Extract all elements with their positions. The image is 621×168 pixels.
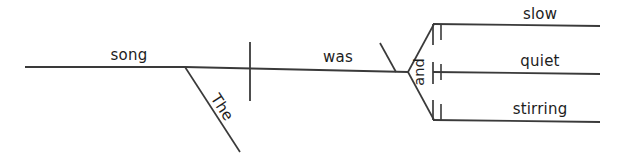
verb-word-label: was (323, 48, 353, 66)
complement-word-label-quiet: quiet (520, 52, 559, 70)
complement-line-slow (433, 24, 600, 26)
complement-word-label-stirring: stirring (513, 100, 568, 118)
sentence-diagram-svg: song The was and slow quiet stirring (0, 0, 621, 168)
complement-line-quiet (433, 72, 600, 74)
predicate-complement-slant (380, 43, 396, 72)
complement-word-label-slow: slow (523, 5, 557, 23)
baseline-predicate-segment (185, 67, 408, 72)
conjunction-word-label: and (411, 58, 427, 85)
sentence-diagram-canvas: song The was and slow quiet stirring (0, 0, 621, 168)
complement-line-stirring (433, 120, 600, 122)
subject-word-label: song (111, 46, 148, 64)
